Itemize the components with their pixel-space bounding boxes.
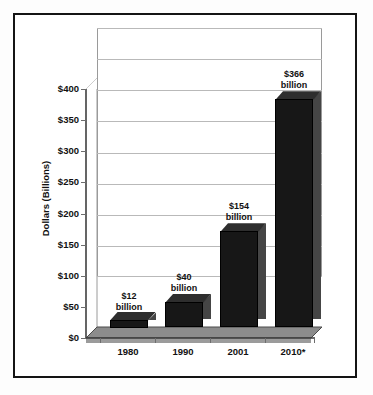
bar-label-2010: $366 billion [259,69,329,91]
y-tick-label-350: $350 [33,114,79,125]
y-tick-label-200: $200 [33,208,79,219]
y-tick-label-150: $150 [33,239,79,250]
bar-2010 [275,99,313,327]
bar-label-2010-amount: $366 [259,69,329,80]
bar-label-1980-unit: billion [94,302,164,313]
bar-label-2010-unit: billion [259,80,329,91]
chart-frame: National Spending for Prescription Drugs… [13,13,357,378]
x-tick-label-2010: 2010* [258,346,328,357]
y-tick-label-400: $400 [33,83,79,94]
bar-label-2001-amount: $154 [204,201,274,212]
bar-label-2001-unit: billion [204,212,274,223]
bar-label-1990-amount: $40 [149,272,219,283]
bar-2001 [220,231,258,327]
chart-image: National Spending for Prescription Drugs… [0,0,373,395]
bar-1990 [165,302,203,327]
bar-label-1990: $40 billion [149,272,219,294]
bar-1980 [110,320,148,328]
y-tick-label-50: $50 [33,301,79,312]
y-tick-label-250: $250 [33,176,79,187]
bar-label-1980: $12 billion [94,291,164,313]
bar-label-1990-unit: billion [149,283,219,294]
bar-label-2001: $154 billion [204,201,274,223]
y-tick-label-100: $100 [33,270,79,281]
y-tick-label-300: $300 [33,145,79,156]
y-tick-label-0: $0 [33,332,79,343]
